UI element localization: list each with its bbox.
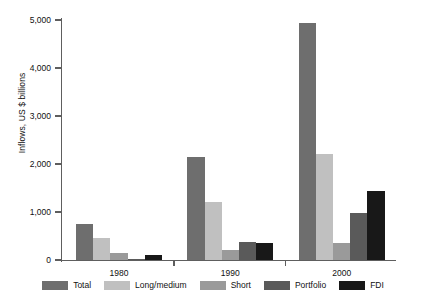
bar [187, 157, 204, 260]
legend-label: FDI [370, 280, 384, 290]
bar-chart: Inflows, US $ billions 01,0002,0003,0004… [0, 0, 426, 306]
bar [367, 191, 384, 260]
bar [316, 154, 333, 260]
y-tick-label: 4,000 [30, 63, 51, 73]
legend-swatch [104, 281, 130, 290]
bar [333, 243, 350, 260]
y-tick-label: 1,000 [30, 207, 51, 217]
bar [256, 243, 273, 260]
legend-item[interactable]: Portfolio [264, 280, 326, 290]
y-tick-label: 3,000 [30, 111, 51, 121]
legend-label: Long/medium [135, 280, 187, 290]
plot-area: 01,0002,0003,0004,0005,000 198019902000 [62, 20, 396, 260]
y-tick-mark [55, 211, 62, 212]
x-tick-mark [285, 260, 286, 266]
bar [76, 224, 93, 260]
x-axis-line [61, 260, 396, 261]
bar [299, 23, 316, 260]
y-axis-title: Inflows, US $ billions [17, 43, 27, 183]
bar [350, 213, 367, 260]
y-tick-mark [55, 115, 62, 116]
bar [222, 250, 239, 260]
y-tick-mark [55, 19, 62, 20]
bar [205, 202, 222, 260]
legend-item[interactable]: Short [200, 280, 251, 290]
bar [110, 253, 127, 260]
y-tick-mark [55, 67, 62, 68]
y-tick-label: 2,000 [30, 159, 51, 169]
legend: TotalLong/mediumShortPortfolioFDI [0, 280, 426, 290]
y-tick-label: 5,000 [30, 15, 51, 25]
legend-swatch [200, 281, 226, 290]
x-tick-label: 2000 [332, 268, 351, 278]
bar [145, 255, 162, 260]
y-tick-mark [55, 163, 62, 164]
x-tick-mark [173, 260, 174, 266]
bar [128, 259, 145, 260]
legend-swatch [264, 281, 290, 290]
x-tick-label: 1980 [110, 268, 129, 278]
bar [239, 242, 256, 260]
legend-swatch [339, 281, 365, 290]
legend-label: Short [231, 280, 251, 290]
y-axis-line [61, 18, 62, 262]
legend-label: Portfolio [295, 280, 326, 290]
legend-item[interactable]: FDI [339, 280, 384, 290]
legend-item[interactable]: Long/medium [104, 280, 187, 290]
bar [93, 238, 110, 260]
legend-item[interactable]: Total [42, 280, 91, 290]
y-tick-mark [55, 259, 62, 260]
legend-swatch [42, 281, 68, 290]
x-tick-label: 1990 [221, 268, 240, 278]
legend-label: Total [73, 280, 91, 290]
y-tick-label: 0 [46, 255, 51, 265]
